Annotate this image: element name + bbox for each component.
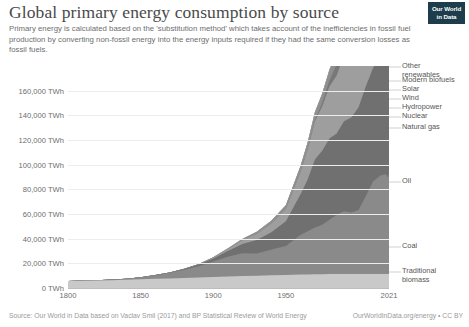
legend-item-oil[interactable]: Oil [402,177,411,186]
legend-item-traditional-biomass[interactable]: Traditional biomass [402,267,436,284]
gridline [68,140,389,141]
gridline [68,189,389,190]
chart-legend: Other renewablesModern biofuelsSolarWind… [389,58,469,298]
logo-line-1: Our World [428,5,465,13]
owid-logo[interactable]: Our World in Data [428,2,465,24]
stacked-area-series [68,66,389,288]
legend-item-natural-gas[interactable]: Natural gas [402,123,440,132]
x-axis-line [68,288,389,289]
x-tick-label: 1850 [132,291,149,300]
logo-line-2: in Data [428,13,465,21]
gridline [68,263,389,264]
gridline [68,165,389,166]
source-note: Source: Our World in Data based on Vacla… [9,312,307,319]
credit-note[interactable]: OurWorldInData.org/energy • CC BY [353,312,463,319]
y-tick-label: 120,000 TWh [19,136,64,145]
gridline [68,115,389,116]
gridline [68,91,389,92]
chart-subtitle: Primary energy is calculated based on th… [9,24,413,56]
y-tick-label: 40,000 TWh [23,234,64,243]
y-axis-labels: 0 TWh20,000 TWh40,000 TWh60,000 TWh80,00… [0,66,64,288]
y-tick-label: 60,000 TWh [23,210,64,219]
y-tick-label: 20,000 TWh [23,259,64,268]
chart-root: Global primary energy consumption by sou… [0,0,469,327]
legend-leader-lines [389,58,403,298]
x-tick-label: 1800 [60,291,77,300]
plot-area[interactable] [68,66,389,288]
gridline [68,214,389,215]
x-tick-label: 1900 [205,291,222,300]
y-tick-label: 160,000 TWh [19,86,64,95]
chart-title: Global primary energy consumption by sou… [9,2,339,23]
y-tick-label: 140,000 TWh [19,111,64,120]
y-tick-label: 100,000 TWh [19,160,64,169]
y-tick-label: 80,000 TWh [23,185,64,194]
x-tick-label: 1950 [277,291,294,300]
legend-item-nuclear[interactable]: Nuclear [402,112,427,121]
legend-item-coal[interactable]: Coal [402,242,417,251]
gridline [68,239,389,240]
